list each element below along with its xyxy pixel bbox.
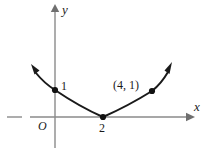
x-intercept-value-label: 2 <box>99 122 105 134</box>
y-axis-arrowhead-icon <box>51 4 59 12</box>
y-axis-label: y <box>62 3 68 16</box>
x-axis-label: x <box>194 100 200 113</box>
curve-right-arrowhead-icon <box>165 62 173 74</box>
x-axis-arrowhead-icon <box>186 113 195 121</box>
origin-label: O <box>38 120 47 132</box>
parabola-curve <box>36 72 168 117</box>
point-marker-4-1 <box>149 88 155 94</box>
y-intercept-value-label: 1 <box>61 80 67 92</box>
curve-left-arrowhead-icon <box>31 64 40 75</box>
point-marker-y-intercept <box>52 87 58 93</box>
graph-figure: y x O 1 2 (4, 1) <box>0 0 209 155</box>
point-marker-x-intercept <box>100 114 106 120</box>
marked-point-coordinate-label: (4, 1) <box>113 79 139 91</box>
